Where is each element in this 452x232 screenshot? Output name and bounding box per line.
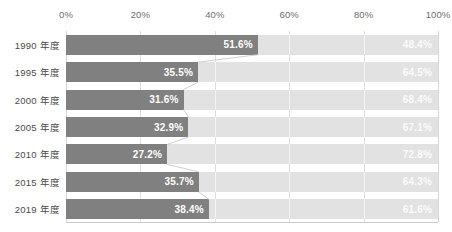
bar-inner-gridline-80 (364, 62, 365, 82)
bar-segment-left: 35.7% (66, 172, 199, 192)
bar-segment-right: 68.4% (184, 90, 438, 110)
bar-value-right: 64.3% (403, 176, 432, 187)
bar-inner-gridline-40 (215, 62, 216, 82)
bar-segment-left: 38.4% (66, 199, 209, 219)
bar-row: 38.4%61.6% (66, 199, 438, 219)
bar-value-right: 64.5% (403, 67, 432, 78)
bar-inner-gridline-40 (215, 172, 216, 192)
category-label-1: 1995 年度 (0, 65, 60, 79)
bar-value-right: 48.4% (403, 39, 432, 50)
bar-inner-gridline-60 (289, 199, 290, 219)
bar-inner-gridline-80 (364, 199, 365, 219)
bar-inner-gridline-80 (364, 35, 365, 55)
bar-segment-right: 64.3% (199, 172, 438, 192)
category-label-2: 2000 年度 (0, 93, 60, 107)
x-axis-tick-20: 20% (131, 9, 150, 20)
x-axis-tick-0: 0% (59, 9, 73, 20)
bar-value-left: 31.6% (149, 94, 178, 105)
bar-segment-left: 27.2% (66, 144, 167, 164)
category-label-6: 2019 年度 (0, 202, 60, 216)
bar-row: 32.9%67.1% (66, 117, 438, 137)
x-axis-tick-80: 80% (354, 9, 373, 20)
bar-inner-gridline-40 (215, 117, 216, 137)
bar-row: 35.5%64.5% (66, 62, 438, 82)
x-axis-tick-100: 100% (426, 9, 451, 20)
category-label-4: 2010 年度 (0, 147, 60, 161)
bar-segment-left: 32.9% (66, 117, 188, 137)
bar-inner-gridline-80 (364, 117, 365, 137)
bar-value-left: 35.5% (164, 67, 193, 78)
category-axis-labels: 1990 年度1995 年度2000 年度2005 年度2010 年度2015 … (0, 31, 60, 223)
bar-value-right: 72.8% (403, 149, 432, 160)
category-label-0: 1990 年度 (0, 38, 60, 52)
bar-row: 31.6%68.4% (66, 90, 438, 110)
bar-value-right: 67.1% (403, 122, 432, 133)
bar-segment-right: 64.5% (198, 62, 438, 82)
bar-row: 35.7%64.3% (66, 172, 438, 192)
bar-inner-gridline-60 (289, 90, 290, 110)
bar-inner-gridline-60 (289, 172, 290, 192)
bar-inner-gridline-60 (289, 117, 290, 137)
bar-segment-right: 72.8% (167, 144, 438, 164)
bar-inner-gridline-80 (364, 144, 365, 164)
stacked-bar-chart: 0%20%40%60%80%100% 1990 年度1995 年度2000 年度… (0, 0, 452, 232)
bar-inner-gridline-80 (364, 90, 365, 110)
x-axis-tick-labels: 0%20%40%60%80%100% (66, 9, 438, 25)
gridline-100 (438, 31, 439, 222)
bar-inner-gridline-60 (289, 144, 290, 164)
bar-segment-left: 51.6% (66, 35, 258, 55)
bar-value-left: 35.7% (164, 176, 193, 187)
bar-segment-right: 61.6% (209, 199, 438, 219)
bar-rows: 51.6%48.4%35.5%64.5%31.6%68.4%32.9%67.1%… (66, 31, 438, 223)
bar-value-left: 27.2% (133, 149, 162, 160)
category-label-3: 2005 年度 (0, 120, 60, 134)
bar-row: 27.2%72.8% (66, 144, 438, 164)
bar-value-right: 61.6% (403, 204, 432, 215)
bar-segment-right: 67.1% (188, 117, 438, 137)
bar-value-right: 68.4% (403, 94, 432, 105)
bar-segment-left: 35.5% (66, 62, 198, 82)
x-axis-tick-60: 60% (280, 9, 299, 20)
bar-row: 51.6%48.4% (66, 35, 438, 55)
bar-segment-right: 48.4% (258, 35, 438, 55)
bar-inner-gridline-60 (289, 62, 290, 82)
bar-inner-gridline-80 (364, 172, 365, 192)
bar-inner-gridline-40 (215, 144, 216, 164)
bar-inner-gridline-40 (215, 90, 216, 110)
bar-value-left: 38.4% (174, 204, 203, 215)
bar-segment-left: 31.6% (66, 90, 184, 110)
bar-inner-gridline-40 (215, 199, 216, 219)
x-axis-tick-40: 40% (205, 9, 224, 20)
bar-value-left: 51.6% (224, 39, 253, 50)
bar-inner-gridline-60 (289, 35, 290, 55)
bar-value-left: 32.9% (154, 122, 183, 133)
category-label-5: 2015 年度 (0, 175, 60, 189)
